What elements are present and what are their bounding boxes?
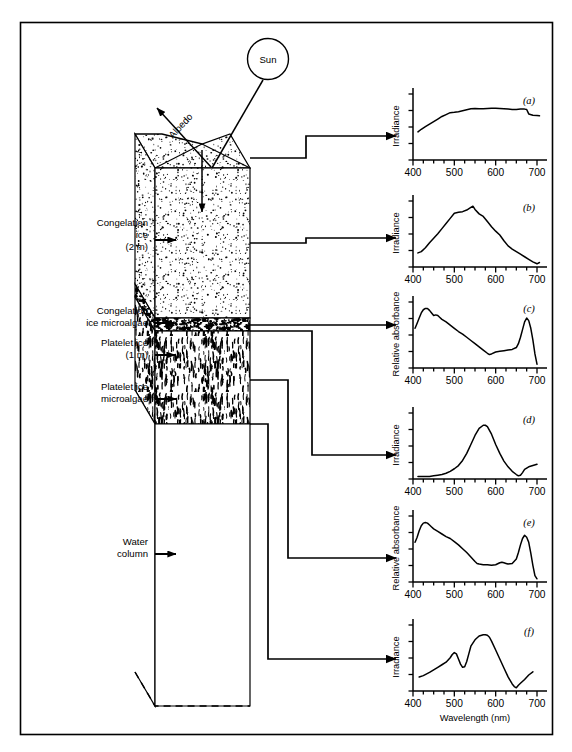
panel-e-letter: (e) bbox=[523, 517, 535, 529]
panel-e-xtick-label: 700 bbox=[529, 589, 546, 600]
water-column-front-face bbox=[155, 424, 250, 706]
panel-a-xtick-label: 600 bbox=[487, 167, 504, 178]
spectrum-panel-d: 400500600700Irradiance(d) bbox=[391, 407, 547, 497]
panel-f-xtick-label: 500 bbox=[446, 698, 463, 709]
panel-f-curve bbox=[419, 635, 533, 688]
panel-c-curve bbox=[415, 308, 537, 364]
layer-label-congelation-ice-microalgae-line2: ice microalgae bbox=[86, 317, 148, 328]
spectrum-panel-c: 400500600700Relative absorbance(c) bbox=[391, 292, 547, 386]
panel-f-ylabel: Irradiance bbox=[391, 636, 401, 677]
layer-label-congelation-ice-line3: (2 m) bbox=[126, 241, 148, 252]
spectrum-panel-a: 400500600700Irradiance(a) bbox=[391, 88, 547, 178]
sun-label: Sun bbox=[259, 54, 276, 65]
figure-canvas: SunAlbedoCongelationice(2 m)Congelationi… bbox=[0, 0, 572, 752]
spectrum-panel-f: 400500600700Irradiance(f) bbox=[391, 619, 547, 709]
panel-d-letter: (d) bbox=[523, 414, 536, 426]
layer-label-water-column-line1: Water bbox=[123, 536, 149, 547]
panel-b-xtick-label: 700 bbox=[529, 274, 546, 285]
panel-f-letter: (f) bbox=[524, 626, 534, 638]
panel-c-ylabel: Relative absorbance bbox=[391, 292, 401, 377]
panel-b-curve bbox=[418, 206, 540, 264]
layer-label-platelet-ice-microalgae-line2: microalgae bbox=[101, 393, 148, 404]
layer-label-congelation-ice-line2: ice bbox=[136, 229, 148, 240]
panel-b-letter: (b) bbox=[523, 202, 536, 214]
panel-b-xtick-label: 400 bbox=[405, 274, 422, 285]
panel-d-xtick-label: 400 bbox=[405, 486, 422, 497]
panel-a-ylabel: Irradiance bbox=[391, 105, 401, 146]
shared-xaxis-label: Wavelength (nm) bbox=[440, 713, 510, 723]
connector-to-panel-f bbox=[250, 424, 396, 659]
layer-label-platelet-ice-line2: (1 m) bbox=[126, 349, 148, 360]
panel-f-xtick-label: 600 bbox=[487, 698, 504, 709]
panel-e-ylabel: Relative absorbance bbox=[391, 506, 401, 591]
platelet-ice-front-face bbox=[155, 331, 250, 424]
ice-column-diagram bbox=[135, 134, 250, 706]
panel-f-xtick-label: 700 bbox=[529, 698, 546, 709]
connector-lines bbox=[250, 136, 396, 659]
figure-root: SunAlbedoCongelationice(2 m)Congelationi… bbox=[0, 0, 572, 752]
connector-to-panel-b bbox=[250, 238, 396, 243]
panel-e-xtick-label: 500 bbox=[446, 589, 463, 600]
connector-to-panel-d bbox=[250, 331, 396, 455]
panel-e-xtick-label: 400 bbox=[405, 589, 422, 600]
panel-a-curve bbox=[418, 108, 540, 132]
panel-c-xtick-label: 700 bbox=[529, 375, 546, 386]
spectrum-panel-b: 400500600700Irradiance(b) bbox=[391, 195, 547, 285]
panel-d-xtick-label: 500 bbox=[446, 486, 463, 497]
panel-d-xtick-label: 700 bbox=[529, 486, 546, 497]
panel-a-xtick-label: 500 bbox=[446, 167, 463, 178]
spectrum-panel-e: 400500600700Relative absorbance(e) bbox=[391, 506, 547, 600]
layer-label-platelet-ice-microalgae-line1: Platelet ice bbox=[101, 381, 148, 392]
panel-c-xtick-label: 400 bbox=[405, 375, 422, 386]
panel-e-curve bbox=[415, 522, 537, 578]
connector-to-panel-e bbox=[250, 380, 396, 558]
layer-label-congelation-ice-microalgae-line1: Congelation bbox=[97, 305, 148, 316]
panel-c-xtick-label: 500 bbox=[446, 375, 463, 386]
panel-b-xtick-label: 600 bbox=[487, 274, 504, 285]
panel-f-xtick-label: 400 bbox=[405, 698, 422, 709]
panel-c-xtick-label: 600 bbox=[487, 375, 504, 386]
connector-to-panel-a bbox=[250, 136, 396, 158]
panel-c-letter: (c) bbox=[523, 303, 535, 315]
figure-border bbox=[21, 23, 553, 735]
layer-label-water-column-line2: column bbox=[117, 548, 148, 559]
layer-label-platelet-ice-line1: Platelet ice bbox=[101, 337, 148, 348]
panel-d-curve bbox=[418, 425, 537, 476]
albedo-label: Albedo bbox=[166, 111, 194, 140]
panel-a-xtick-label: 400 bbox=[405, 167, 422, 178]
panel-d-xtick-label: 600 bbox=[487, 486, 504, 497]
panel-d-ylabel: Irradiance bbox=[391, 424, 401, 465]
panel-e-xtick-label: 600 bbox=[487, 589, 504, 600]
panel-a-xtick-label: 700 bbox=[529, 167, 546, 178]
panel-b-xtick-label: 500 bbox=[446, 274, 463, 285]
panel-b-ylabel: Irradiance bbox=[391, 212, 401, 253]
layer-label-congelation-ice-line1: Congelation bbox=[97, 217, 148, 228]
congelation-ice-microalgae-front bbox=[155, 318, 250, 331]
panel-a-letter: (a) bbox=[523, 95, 536, 107]
